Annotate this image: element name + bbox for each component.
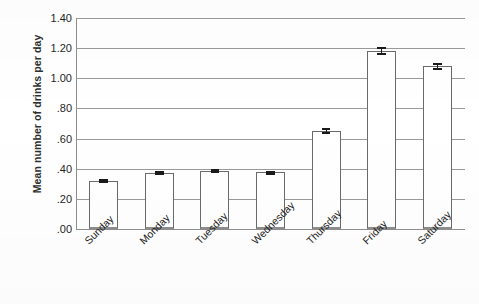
x-axis-tick-label-tuesday: Tuesday (193, 210, 230, 247)
bar-chart: Mean number of drinks per day 1.401.201.… (0, 0, 479, 304)
x-axis-tick-label-monday: Monday (137, 212, 172, 247)
x-axis-tick-labels: SundayMondayTuesdayWednesdayThursdayFrid… (0, 0, 479, 304)
x-axis-tick-label-thursday: Thursday (304, 207, 343, 246)
x-axis-tick-label-wednesday: Wednesday (249, 199, 297, 247)
x-axis-tick-label-sunday: Sunday (82, 213, 116, 247)
x-axis-tick-label-friday: Friday (360, 217, 389, 246)
x-axis-tick-label-saturday: Saturday (415, 208, 453, 246)
